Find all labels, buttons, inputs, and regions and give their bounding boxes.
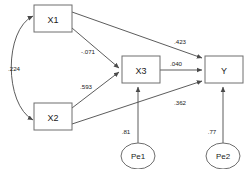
coefficient-label-x2-y: .362 (174, 99, 187, 106)
node-y-label: Y (221, 66, 227, 76)
edge-x2-x3 (72, 72, 119, 108)
node-x1[interactable]: X1 (34, 5, 72, 32)
coefficient-label-x3-y: .040 (170, 60, 183, 67)
node-pe1[interactable]: Pe1 (121, 143, 155, 169)
node-x2[interactable]: X2 (34, 103, 72, 130)
coefficient-label-pe2: .77 (208, 128, 217, 135)
node-pe2[interactable]: Pe2 (206, 143, 240, 169)
coefficient-label-x1-y: .423 (174, 38, 187, 45)
node-pe1-label: Pe1 (131, 152, 146, 161)
edge-x1-x3 (72, 28, 119, 68)
node-y[interactable]: Y (205, 56, 243, 83)
node-x2-label: X2 (47, 113, 58, 123)
node-x3-label: X3 (135, 66, 146, 76)
node-x3[interactable]: X3 (122, 56, 160, 83)
coefficient-label-pe1: .81 (122, 128, 131, 135)
path-diagram-canvas: X1 X2 X3 Y Pe1 Pe2 .224 -.071 .593 .423 … (0, 0, 246, 169)
coefficient-label-x1-x3: -.071 (81, 48, 96, 55)
coefficient-label-x2-x3: .593 (80, 83, 93, 90)
node-pe2-label: Pe2 (216, 152, 231, 161)
coefficient-label-x1-x2: .224 (8, 65, 21, 72)
node-x1-label: X1 (47, 15, 58, 25)
path-diagram-svg: X1 X2 X3 Y Pe1 Pe2 .224 -.071 .593 .423 … (0, 0, 246, 169)
